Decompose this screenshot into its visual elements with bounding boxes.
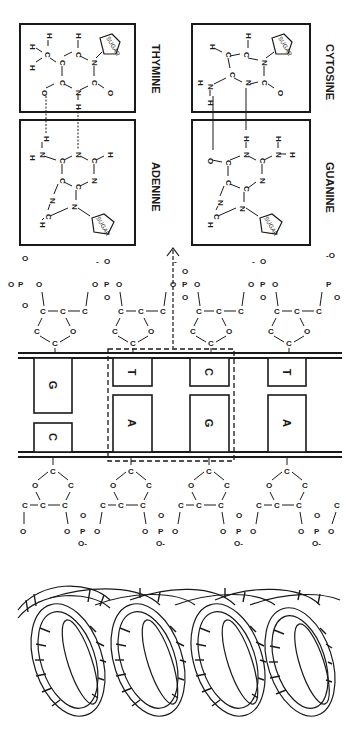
svg-text:O: O bbox=[298, 527, 304, 536]
svg-text:C: C bbox=[62, 501, 68, 510]
zoom-arrow bbox=[167, 248, 179, 348]
svg-text:C: C bbox=[256, 501, 262, 510]
svg-text:P: P bbox=[104, 280, 110, 289]
guanine-panel: O C N H C N H H C C N N C N H bbox=[192, 120, 310, 245]
svg-text:-: - bbox=[174, 257, 177, 266]
base-label: A bbox=[281, 419, 293, 427]
svg-text:C: C bbox=[242, 52, 251, 58]
svg-text:C: C bbox=[316, 307, 322, 316]
svg-text:C: C bbox=[216, 307, 222, 316]
svg-text:O: O bbox=[104, 293, 110, 302]
svg-text:C: C bbox=[178, 501, 184, 510]
svg-text:O-: O- bbox=[234, 539, 243, 548]
svg-text:C: C bbox=[196, 501, 202, 510]
thymine-panel: H C H H C C H C O N N C O H bbox=[20, 24, 135, 112]
svg-text:C: C bbox=[60, 307, 66, 316]
svg-text:C: C bbox=[206, 467, 212, 476]
svg-text:O: O bbox=[170, 280, 176, 289]
svg-text:C: C bbox=[260, 80, 269, 86]
svg-text:O: O bbox=[220, 527, 226, 536]
svg-text:O: O bbox=[328, 527, 334, 536]
svg-text:O: O bbox=[40, 90, 49, 96]
double-helix-illustration bbox=[18, 586, 348, 726]
svg-text:C: C bbox=[43, 52, 52, 58]
svg-text:C: C bbox=[224, 160, 233, 166]
svg-text:C: C bbox=[128, 467, 134, 476]
svg-text:C: C bbox=[138, 307, 144, 316]
svg-text:O: O bbox=[104, 257, 110, 266]
svg-text:O: O bbox=[142, 527, 148, 536]
svg-text:H: H bbox=[28, 65, 37, 71]
svg-text:N: N bbox=[90, 178, 99, 184]
svg-text:C: C bbox=[58, 60, 67, 66]
svg-text:O: O bbox=[260, 293, 266, 302]
svg-text:N: N bbox=[274, 152, 283, 158]
svg-text:O: O bbox=[226, 327, 232, 336]
svg-text:O: O bbox=[80, 511, 86, 520]
svg-text:C: C bbox=[274, 307, 280, 316]
base-label: C bbox=[47, 433, 59, 441]
base-label: G bbox=[203, 419, 215, 428]
adenine-label: ADENINE bbox=[150, 162, 162, 212]
svg-text:C: C bbox=[82, 307, 88, 316]
svg-text:O: O bbox=[110, 481, 116, 490]
svg-text:C: C bbox=[40, 501, 46, 510]
svg-text:C: C bbox=[118, 501, 124, 510]
svg-text:O: O bbox=[92, 280, 98, 289]
svg-text:N: N bbox=[216, 200, 225, 206]
svg-text:O: O bbox=[158, 511, 164, 520]
svg-text:C: C bbox=[160, 307, 166, 316]
sugar-label: SUGAR bbox=[263, 216, 279, 238]
svg-text:C: C bbox=[228, 72, 237, 78]
svg-text:O: O bbox=[248, 280, 254, 289]
svg-text:O-: O- bbox=[156, 539, 165, 548]
svg-text:H: H bbox=[38, 222, 47, 228]
adenine-panel: H N H C N C H C C N N C N H bbox=[20, 120, 135, 245]
svg-text:O: O bbox=[304, 327, 310, 336]
svg-text:H: H bbox=[196, 80, 205, 86]
svg-text:O: O bbox=[194, 280, 200, 289]
svg-text:O: O bbox=[22, 254, 28, 263]
svg-text:C: C bbox=[208, 339, 214, 348]
svg-text:O: O bbox=[182, 267, 188, 276]
svg-text:C: C bbox=[296, 501, 302, 510]
thymine-label: THYMINE bbox=[150, 44, 162, 94]
svg-text:C: C bbox=[196, 307, 202, 316]
diagram-canvas: C H C H H C C H C O N N C O H bbox=[0, 0, 360, 747]
base-label: A bbox=[126, 419, 138, 427]
cytosine-structure: H C H C C N H H N N C O bbox=[196, 33, 285, 106]
svg-text:O: O bbox=[106, 90, 115, 96]
base-label: T bbox=[281, 369, 293, 376]
svg-text:O: O bbox=[206, 158, 215, 164]
svg-text:N: N bbox=[238, 206, 247, 212]
svg-text:N: N bbox=[260, 60, 269, 66]
svg-text:O: O bbox=[266, 481, 272, 490]
svg-text:C: C bbox=[294, 307, 300, 316]
svg-text:C: C bbox=[22, 501, 28, 510]
svg-text:O-: O- bbox=[312, 539, 321, 548]
guanine-structure: O C N H C N H H C C N N C N H bbox=[206, 136, 297, 228]
helix-turn bbox=[98, 594, 199, 725]
svg-text:C: C bbox=[334, 501, 340, 510]
svg-text:-O: -O bbox=[326, 251, 335, 260]
svg-text:C: C bbox=[34, 327, 40, 336]
svg-text:O: O bbox=[260, 257, 266, 266]
svg-text:C: C bbox=[118, 307, 124, 316]
svg-text:N: N bbox=[38, 152, 47, 158]
svg-text:P: P bbox=[236, 527, 242, 536]
svg-text:C: C bbox=[40, 307, 46, 316]
svg-text:H: H bbox=[274, 136, 283, 142]
base-label: T bbox=[126, 369, 138, 376]
svg-text:O: O bbox=[276, 90, 285, 96]
svg-text:P: P bbox=[182, 280, 188, 289]
base-pair-rung: T A bbox=[268, 358, 306, 452]
sugar-ring-icon: SUGAR bbox=[266, 34, 293, 58]
svg-text:H: H bbox=[74, 33, 83, 39]
svg-text:N: N bbox=[48, 198, 57, 204]
svg-text:O: O bbox=[236, 511, 242, 520]
svg-text:O: O bbox=[8, 280, 14, 289]
svg-text:C: C bbox=[224, 481, 230, 490]
svg-text:C: C bbox=[274, 501, 280, 510]
svg-text:C: C bbox=[90, 80, 99, 86]
svg-text:N: N bbox=[258, 178, 267, 184]
